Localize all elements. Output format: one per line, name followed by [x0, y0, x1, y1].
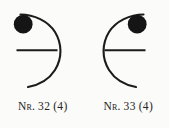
caption-row: Nr.32(4) Nr.33(4) [0, 98, 169, 128]
figure-32-caption-qualifier: (4) [53, 100, 67, 112]
figures-drawing [0, 0, 169, 96]
illustration-plate: Nr.32(4) Nr.33(4) [0, 0, 169, 128]
figure-33-caption: Nr.33(4) [84, 98, 170, 114]
figure-33-caption-prefix: Nr. [103, 100, 120, 112]
figure-33-caption-number: 33 [124, 100, 136, 112]
figure-32-caption-number: 32 [38, 100, 50, 112]
figure-32-group [14, 15, 61, 88]
figure-32-filled-disc [14, 15, 33, 34]
figure-32-caption-prefix: Nr. [18, 100, 35, 112]
figure-33-filled-disc [128, 15, 147, 34]
figure-33-group [104, 15, 147, 88]
figure-32-caption: Nr.32(4) [0, 98, 84, 114]
figure-33-caption-qualifier: (4) [139, 100, 153, 112]
